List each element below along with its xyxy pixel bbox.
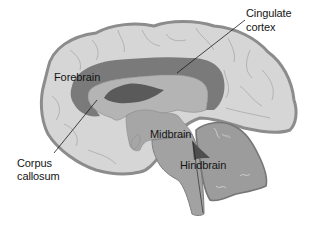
label-corpus-callosum-line1: Corpus <box>17 157 52 169</box>
brain-diagram <box>0 0 317 231</box>
label-forebrain: Forebrain <box>54 71 100 83</box>
label-cingulate-cortex-line2: cortex <box>246 21 275 33</box>
label-corpus-callosum-line2: callosum <box>17 170 60 182</box>
label-cingulate-cortex-line1: Cingulate <box>246 7 292 19</box>
label-midbrain: Midbrain <box>150 128 191 140</box>
label-hindbrain: Hindbrain <box>180 159 226 171</box>
